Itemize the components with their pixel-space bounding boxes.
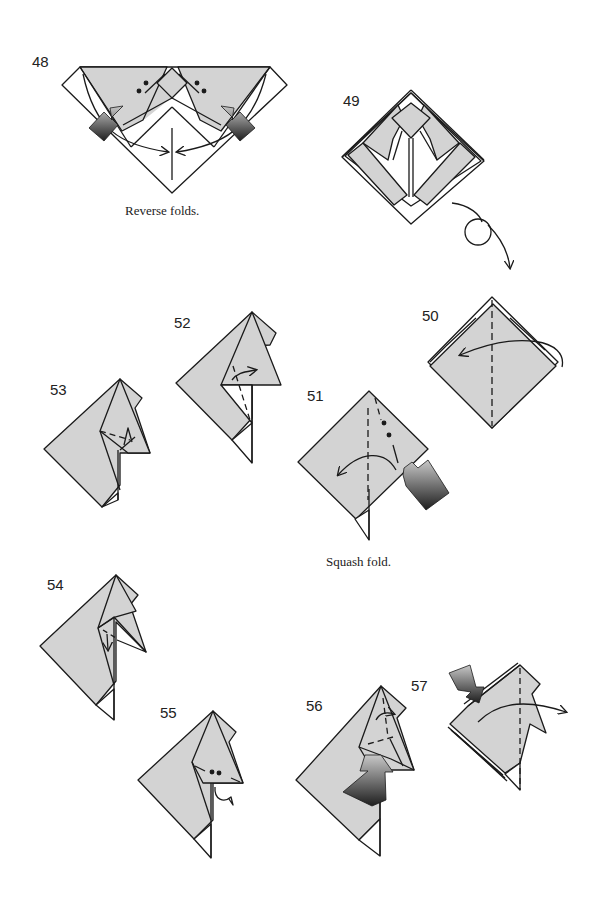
step-52-diagram bbox=[176, 312, 281, 463]
step-49-diagram bbox=[342, 90, 510, 268]
push-arrow-icon bbox=[449, 665, 484, 703]
step-55-diagram bbox=[138, 711, 243, 858]
origami-diagram-page: 48 49 50 51 52 53 54 55 56 57 Reverse fo… bbox=[0, 0, 599, 897]
step-53-diagram bbox=[44, 379, 150, 507]
step-50-diagram bbox=[428, 297, 563, 428]
turn-over-icon bbox=[465, 219, 491, 245]
diagram-artwork bbox=[0, 0, 599, 897]
push-arrow-icon bbox=[403, 460, 449, 510]
step-54-diagram bbox=[40, 575, 146, 720]
step-56-diagram bbox=[296, 686, 414, 856]
